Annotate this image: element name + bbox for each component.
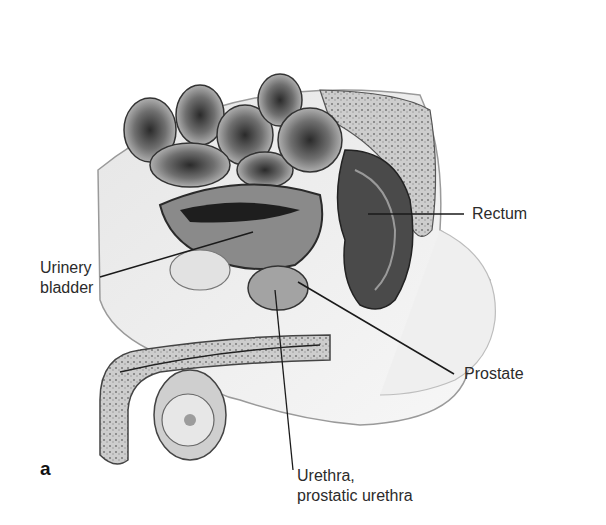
panel-letter: a [40, 458, 51, 480]
anatomy-figure: Urinery bladder Rectum Prostate Urethra,… [0, 0, 606, 525]
label-urinary-bladder-line2: bladder [40, 278, 93, 298]
leader-line-bladder [100, 232, 253, 277]
label-urinary-bladder: Urinery bladder [40, 258, 93, 298]
label-prostate-text: Prostate [464, 364, 524, 384]
label-rectum-text: Rectum [472, 204, 527, 224]
leader-line-prostate [298, 282, 454, 374]
leader-line-urethra [275, 290, 293, 470]
label-rectum: Rectum [472, 204, 527, 224]
label-prostate: Prostate [464, 364, 524, 384]
label-urethra-line1: Urethra, [297, 466, 413, 486]
label-urinary-bladder-line1: Urinery [40, 258, 93, 278]
label-urethra: Urethra, prostatic urethra [297, 466, 413, 506]
label-urethra-line2: prostatic urethra [297, 486, 413, 506]
